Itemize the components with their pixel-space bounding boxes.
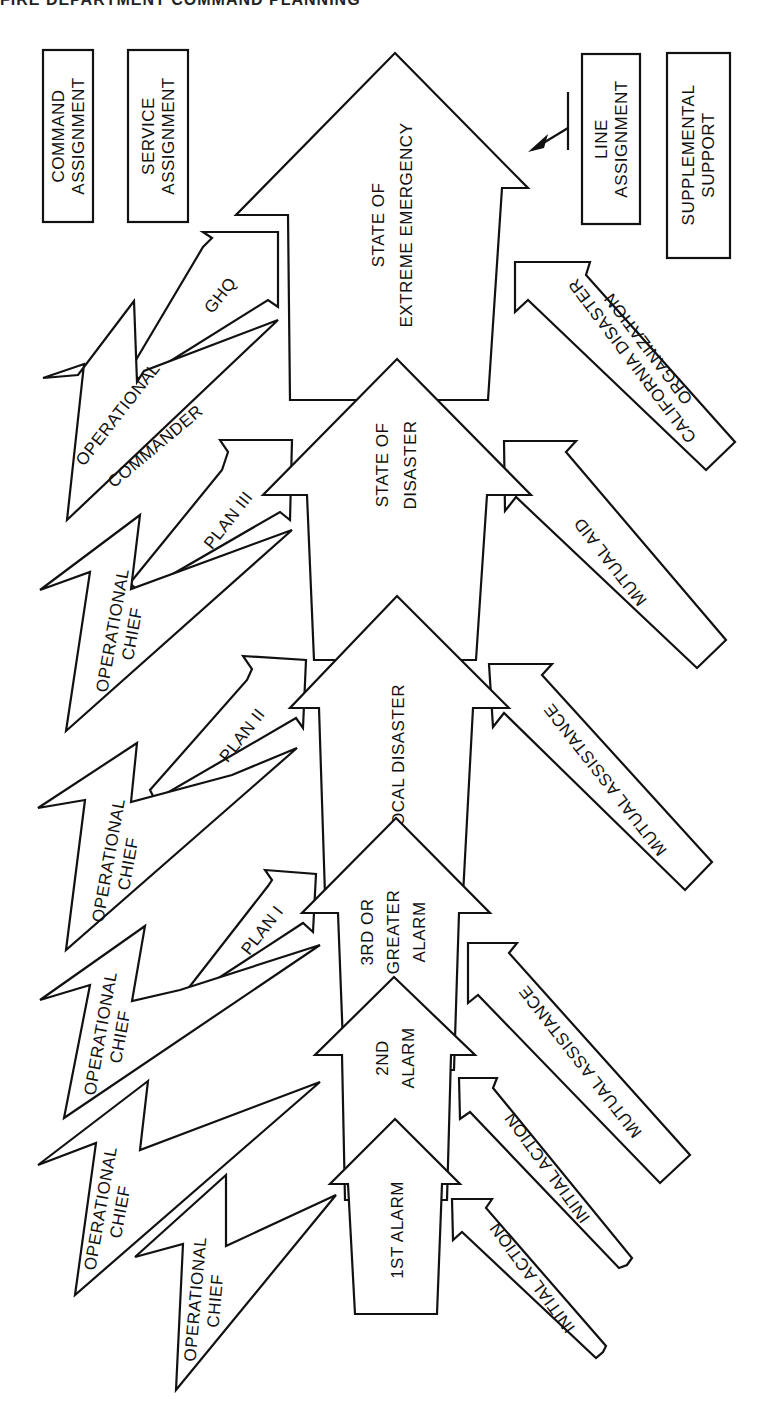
level-6-line1: STATE OF <box>369 183 388 268</box>
support-california-line1: CALIFORNIA DISASTER <box>565 275 701 446</box>
legend-supplemental-line2: SUPPORT <box>699 112 718 197</box>
support-initial-action-1-label: INITIAL ACTION <box>486 1219 579 1337</box>
level-5-line2: DISASTER <box>401 420 420 509</box>
level-arrow-state-extreme-emergency: STATE OF EXTREME EMERGENCY <box>236 53 528 400</box>
command-bolt-chief-3: OPERATIONAL CHIEF <box>40 926 320 1118</box>
support-arrow-mutual-assistance-2: MUTUAL ASSISTANCE <box>489 664 712 890</box>
emergency-escalation-diagram: COMMAND ASSIGNMENT SERVICE ASSIGNMENT LI… <box>0 0 757 1427</box>
legend-supplemental-line1: SUPPLEMENTAL <box>679 85 698 226</box>
level-3-line1: 3RD OR <box>358 898 377 965</box>
legend-service-line1: SERVICE <box>139 97 158 175</box>
level-5-line1: STATE OF <box>373 423 392 508</box>
legend-line-assignment: LINE ASSIGNMENT <box>528 54 640 224</box>
support-mutual-assistance-2-label: MUTUAL ASSISTANCE <box>540 700 671 860</box>
legend-command-assignment: COMMAND ASSIGNMENT <box>43 50 93 222</box>
legend-command-line2: ASSIGNMENT <box>69 77 88 194</box>
legend-line-line1: LINE <box>592 119 611 159</box>
legend-command-line1: COMMAND <box>49 89 68 182</box>
support-initial-action-2-label: INITIAL ACTION <box>501 1109 594 1227</box>
level-3-line3: ALARM <box>410 901 429 962</box>
legend-service-assignment: SERVICE ASSIGNMENT <box>128 50 188 222</box>
support-arrow-mutual-assistance-1: MUTUAL ASSISTANCE <box>468 943 690 1183</box>
pointer-arrow-icon <box>528 92 568 152</box>
level-3-line2: GREATER <box>384 890 403 974</box>
legend-supplemental-support: SUPPLEMENTAL SUPPORT <box>667 53 730 258</box>
level-1-label: 1ST ALARM <box>388 1181 407 1279</box>
legend-service-line2: ASSIGNMENT <box>159 77 178 194</box>
support-arrow-mutual-aid: MUTUAL AID <box>504 441 726 668</box>
level-6-line2: EXTREME EMERGENCY <box>397 123 416 328</box>
level-4-label: LOCAL DISASTER <box>389 684 408 836</box>
support-arrow-california: CALIFORNIA DISASTER ORGANIZATION <box>515 262 735 470</box>
legend-line-line2: ASSIGNMENT <box>612 80 631 197</box>
level-2-line2: ALARM <box>399 1027 418 1088</box>
level-2-line1: 2ND <box>373 1040 392 1076</box>
support-mutual-assistance-1-label: MUTUAL ASSISTANCE <box>515 982 646 1142</box>
